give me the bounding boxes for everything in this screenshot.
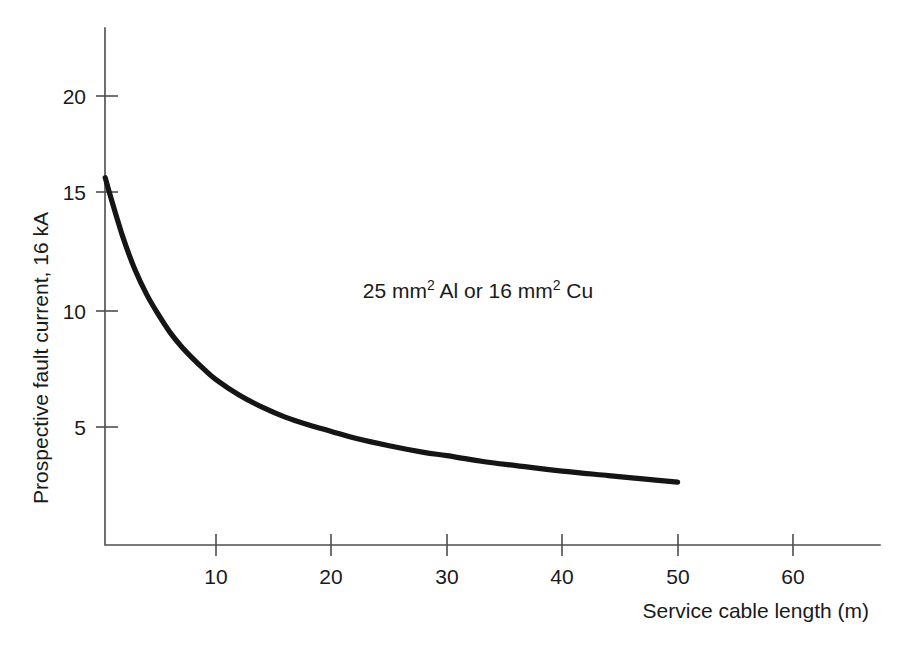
x-tick-label-50: 50 <box>666 565 689 588</box>
x-tick-label-30: 30 <box>435 565 458 588</box>
annotation-part-2: Al or 16 mm <box>435 279 553 302</box>
annotation-part-3: 2 <box>553 277 561 293</box>
chart-plot-area: 20 15 10 5 10 20 30 40 50 60 Prospective… <box>0 0 923 651</box>
x-tick-label-60: 60 <box>781 565 804 588</box>
annotation-part-4: Cu <box>560 279 593 302</box>
chart-figure: 20 15 10 5 10 20 30 40 50 60 Prospective… <box>0 0 923 651</box>
y-axis-title: Prospective fault current, 16 kA <box>29 212 52 504</box>
annotation-cable-spec: 25 mm2 Al or 16 mm2 Cu <box>363 277 593 302</box>
y-tick-marks <box>96 96 118 427</box>
y-tick-label-20: 20 <box>63 85 86 108</box>
annotation-part-1: 2 <box>427 277 435 293</box>
x-tick-label-20: 20 <box>319 565 342 588</box>
data-curve-prospective-fault-current <box>105 178 677 483</box>
y-tick-label-10: 10 <box>63 300 86 323</box>
x-axis-title: Service cable length (m) <box>643 599 869 622</box>
y-tick-label-15: 15 <box>63 181 86 204</box>
y-tick-label-5: 5 <box>74 416 86 439</box>
annotation-part-0: 25 mm <box>363 279 427 302</box>
x-tick-label-10: 10 <box>204 565 227 588</box>
x-tick-label-40: 40 <box>550 565 573 588</box>
